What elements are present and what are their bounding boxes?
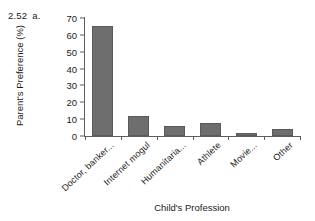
x-tickmark bbox=[300, 136, 301, 140]
bar-slot bbox=[228, 18, 264, 136]
bar bbox=[128, 116, 149, 136]
bar-slot bbox=[157, 18, 193, 136]
y-axis-title: Parent's Preference (%) bbox=[14, 16, 25, 136]
bar-chart-figure: Parent's Preference (%) 706050403020100 … bbox=[0, 0, 315, 221]
bar bbox=[164, 126, 185, 136]
x-axis-label-text: Movie... bbox=[229, 140, 259, 169]
bar bbox=[92, 26, 113, 136]
y-tickmark bbox=[80, 68, 84, 69]
x-axis-label: Athlete bbox=[195, 140, 223, 167]
bar bbox=[236, 133, 257, 136]
plot-area: 706050403020100 bbox=[84, 18, 300, 136]
bar bbox=[200, 123, 221, 136]
bar-slot bbox=[192, 18, 228, 136]
y-tickmark bbox=[80, 136, 84, 137]
bar-slot bbox=[121, 18, 157, 136]
x-axis-label-text: Other bbox=[271, 140, 295, 163]
x-axis-category-labels: Doctor, banker...Internet mogulHumanitar… bbox=[84, 140, 300, 192]
bar-group bbox=[85, 18, 300, 136]
x-axis-label-text: Athlete bbox=[195, 140, 223, 167]
y-tickmark bbox=[80, 85, 84, 86]
y-tickmark bbox=[80, 34, 84, 35]
x-axis-label: Movie... bbox=[229, 140, 259, 169]
x-axis-title: Child's Profession bbox=[84, 202, 300, 213]
y-tickmark bbox=[80, 119, 84, 120]
x-axis-label: Other bbox=[271, 140, 295, 163]
bar bbox=[272, 129, 293, 136]
bar-slot bbox=[264, 18, 300, 136]
y-tickmark bbox=[80, 18, 84, 19]
y-tickmark bbox=[80, 51, 84, 52]
bar-slot bbox=[85, 18, 121, 136]
y-tickmark bbox=[80, 102, 84, 103]
